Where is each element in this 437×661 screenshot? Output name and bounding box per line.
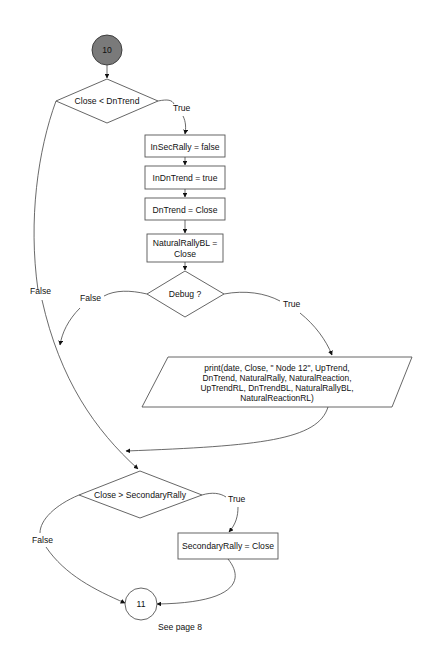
decision-label: Close < DnTrend — [75, 96, 140, 106]
edge-d2-true — [224, 292, 280, 301]
process-dntrend-close: DnTrend = Close — [145, 198, 225, 220]
flowchart: 10 Close < DnTrend True False InSecRally… — [0, 0, 437, 661]
process-label: InDnTrend = true — [153, 173, 218, 183]
start-connector-label: 10 — [102, 45, 112, 55]
decision-label: Close > SecondaryRally — [94, 490, 187, 500]
edge-d2-true-arrow — [300, 313, 332, 355]
edge-d2-false-arrow — [60, 308, 80, 345]
edge-d1-true-arrow — [183, 116, 186, 134]
edge-p5-to-end — [157, 559, 235, 604]
edge-label-false: False — [80, 293, 101, 303]
io-label-line4: NaturalReactionRL) — [240, 393, 314, 403]
process-label: DnTrend = Close — [153, 205, 218, 215]
edge-d3-false-arrow — [46, 547, 125, 603]
page-reference-note: See page 8 — [158, 622, 202, 632]
edge-d1-false-arrow — [42, 300, 138, 469]
decision-close-lt-dntrend: Close < DnTrend — [56, 79, 158, 123]
process-naturalrallybl-close: NaturalRallyBL = Close — [147, 234, 223, 262]
edge-label-true: True — [283, 299, 301, 309]
edge-label-true: True — [173, 103, 191, 113]
edge-d3-true-arrow — [229, 507, 238, 532]
edge-d3-false — [40, 495, 79, 533]
edge-label-false: False — [30, 286, 51, 296]
decision-close-gt-secondaryrally: Close > SecondaryRally — [79, 471, 202, 518]
process-label-line1: NaturalRallyBL = — [153, 238, 217, 248]
edge-d1-false — [34, 101, 56, 290]
edge-label-false: False — [32, 535, 53, 545]
start-connector-10: 10 — [92, 35, 122, 65]
io-label-line3: UpTrendRL, DnTrendBL, NaturalRallyBL, — [201, 383, 354, 393]
process-secondaryrally-close: SecondaryRally = Close — [178, 533, 278, 559]
edge-d3-true — [202, 493, 226, 497]
process-label: InSecRally = false — [150, 142, 219, 152]
decision-label: Debug ? — [169, 289, 202, 299]
process-insecrally-false: InSecRally = false — [145, 135, 225, 157]
io-label-line2: DnTrend, NaturalRally, NaturalReaction, — [203, 373, 352, 383]
io-label-line1: print(date, Close, " Node 12", UpTrend, — [204, 363, 349, 373]
process-label-line2: Close — [174, 249, 196, 259]
process-indntrend-true: InDnTrend = true — [145, 166, 225, 189]
io-print-statement: print(date, Close, " Node 12", UpTrend, … — [142, 357, 412, 407]
process-label: SecondaryRally = Close — [182, 541, 274, 551]
decision-debug: Debug ? — [147, 271, 224, 317]
end-connector-label: 11 — [137, 599, 146, 609]
end-connector-11: 11 — [125, 588, 157, 620]
edge-d1-true — [158, 100, 174, 104]
edge-d2-false — [104, 291, 147, 296]
edge-label-true: True — [228, 494, 246, 504]
edge-io-merge — [126, 407, 328, 451]
